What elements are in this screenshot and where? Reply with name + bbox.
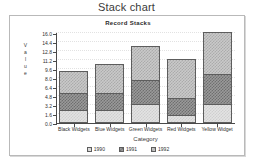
y-axis-title-letter: l	[21, 56, 30, 63]
legend-swatch-icon	[119, 147, 124, 152]
bar-segment[interactable]	[203, 32, 232, 75]
legend-label: 1990	[94, 146, 105, 152]
y-axis-line	[56, 33, 57, 124]
x-axis-category-label: Yellow Widget	[199, 126, 235, 132]
x-axis-category-label: Green Widgets	[128, 126, 164, 132]
legend-label: 1992	[158, 146, 169, 152]
bar-segment[interactable]	[167, 59, 196, 99]
y-axis-tick-label: 1.6	[45, 113, 52, 118]
legend-swatch-icon	[87, 147, 92, 152]
y-axis-tick-label: 4.8	[45, 95, 52, 100]
y-axis-title: Value	[21, 42, 30, 77]
x-axis-line	[56, 123, 235, 124]
bar-segment[interactable]	[131, 80, 160, 105]
bar-segment[interactable]	[59, 71, 88, 94]
stacked-bar[interactable]	[203, 33, 232, 123]
bar-segment[interactable]	[95, 110, 124, 123]
y-axis-tick-label: 12.8	[42, 50, 52, 55]
x-axis-category-label: Red Widgets	[163, 126, 199, 132]
y-axis-title-letter: u	[21, 63, 30, 70]
legend-item[interactable]: 1991	[119, 146, 137, 152]
y-axis-title-letter: e	[21, 70, 30, 77]
page-title: Stack chart	[0, 1, 253, 14]
stacked-bar[interactable]	[59, 72, 88, 123]
legend-label: 1991	[126, 146, 137, 152]
bar-segment[interactable]	[59, 110, 88, 123]
y-axis-tick-mark	[53, 124, 57, 125]
y-axis-title-letter: a	[21, 49, 30, 56]
x-axis-title: Category	[56, 136, 235, 142]
plot-area: 0.01.63.24.86.48.09.611.212.814.416.0	[56, 33, 235, 124]
stacked-bar[interactable]	[95, 65, 124, 123]
chart-subtitle: Record Stacks	[10, 20, 246, 26]
stacked-bar[interactable]	[167, 60, 196, 123]
legend-swatch-icon	[151, 147, 156, 152]
bar-segment[interactable]	[131, 104, 160, 123]
y-axis-tick-label: 14.4	[42, 41, 52, 46]
bar-segment[interactable]	[203, 104, 232, 123]
chart-legend: 199019911992	[10, 146, 246, 152]
legend-item[interactable]: 1992	[151, 146, 169, 152]
x-axis-category-label: Black Widgets	[56, 126, 92, 132]
y-axis-tick-label: 3.2	[45, 104, 52, 109]
y-axis-tick-label: 0.0	[45, 122, 52, 127]
bar-segment[interactable]	[95, 93, 124, 111]
bar-segment[interactable]	[203, 74, 232, 105]
x-axis-category-label: Blue Widgets	[92, 126, 128, 132]
bar-segment[interactable]	[59, 93, 88, 111]
stacked-bar[interactable]	[131, 47, 160, 124]
y-axis-title-letter: V	[21, 42, 30, 49]
legend-item[interactable]: 1990	[87, 146, 105, 152]
y-axis-tick-label: 16.0	[42, 32, 52, 37]
bar-segment[interactable]	[131, 46, 160, 81]
bar-segment[interactable]	[167, 115, 196, 123]
y-axis-tick-label: 9.6	[45, 68, 52, 73]
y-axis-tick-label: 8.0	[45, 77, 52, 82]
bar-segment[interactable]	[167, 98, 196, 115]
y-axis-tick-label: 6.4	[45, 86, 52, 91]
chart-frame: Record Stacks Value 0.01.63.24.86.48.09.…	[9, 15, 245, 156]
chart-screenshot: Stack chart Record Stacks Value 0.01.63.…	[0, 0, 253, 161]
bar-segment[interactable]	[95, 64, 124, 94]
y-axis-tick-label: 11.2	[43, 59, 52, 64]
